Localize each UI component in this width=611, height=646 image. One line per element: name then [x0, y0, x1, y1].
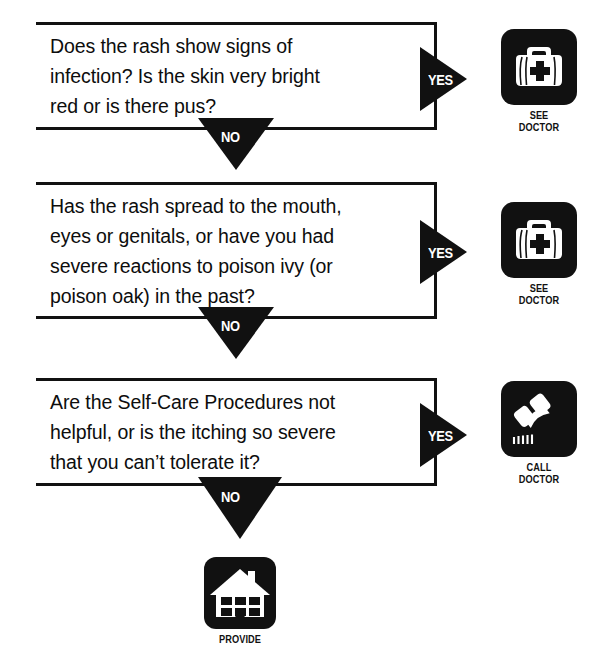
question-text-3: Are the Self-Care Procedures not helpful…: [50, 387, 416, 477]
outcome-call-doctor[interactable]: CALL DOCTOR: [491, 381, 587, 485]
house-tile: [204, 557, 276, 629]
question-box-2: Has the rash spread to the mouth, eyes o…: [36, 182, 437, 319]
house-icon: [204, 557, 276, 629]
outcome-see-doctor-2[interactable]: SEE DOCTOR: [491, 202, 587, 306]
outcome-provide[interactable]: PROVIDE: [192, 557, 288, 646]
question-box-1: Does the rash show signs of infection? I…: [36, 22, 437, 130]
yes-arrow-1[interactable]: [420, 47, 467, 111]
no-arrow-2[interactable]: [198, 307, 274, 359]
medical-bag-tile-1: [501, 29, 577, 105]
telephone-icon: [501, 381, 577, 457]
medical-bag-tile-2: [501, 202, 577, 278]
yes-arrow-3[interactable]: [420, 403, 467, 467]
outcome-label-provide: PROVIDE: [196, 634, 284, 646]
outcome-label-1: SEE DOCTOR: [495, 110, 583, 133]
question-text-1: Does the rash show signs of infection? I…: [50, 31, 416, 121]
medical-bag-icon: [501, 29, 577, 105]
outcome-label-2: SEE DOCTOR: [495, 283, 583, 306]
outcome-label-3: CALL DOCTOR: [495, 462, 583, 485]
question-box-3: Are the Self-Care Procedures not helpful…: [36, 378, 437, 486]
telephone-tile: [501, 381, 577, 457]
question-text-2: Has the rash spread to the mouth, eyes o…: [50, 191, 416, 311]
yes-arrow-2[interactable]: [420, 220, 467, 284]
medical-bag-icon: [501, 202, 577, 278]
no-arrow-3[interactable]: [198, 477, 282, 539]
outcome-see-doctor-1[interactable]: SEE DOCTOR: [491, 29, 587, 133]
no-arrow-1[interactable]: [198, 118, 274, 170]
